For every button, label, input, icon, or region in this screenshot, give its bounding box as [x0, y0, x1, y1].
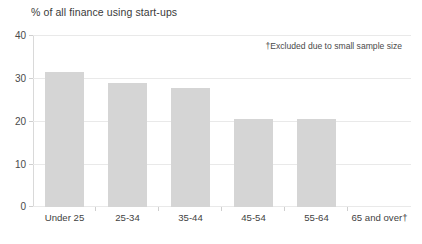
- x-tick-sep-2: [158, 207, 159, 211]
- bar-35-44[interactable]: [171, 88, 210, 207]
- bar-under-25[interactable]: [45, 72, 84, 207]
- y-tick-label-30: 30: [15, 73, 26, 84]
- bar-slot-25-34: [96, 35, 159, 207]
- bar-slot-under-25: [33, 35, 96, 207]
- x-tick-label-under-25: Under 25: [33, 212, 96, 223]
- bar-25-34[interactable]: [108, 83, 147, 207]
- bars-layer: [33, 35, 411, 207]
- bar-slot-65-and-over: [348, 35, 411, 207]
- y-tick-label-10: 10: [15, 159, 26, 170]
- x-tick-label-25-34: 25-34: [96, 212, 159, 223]
- x-tick-label-65-and-over: 65 and over†: [348, 212, 411, 223]
- x-tick-label-45-54: 45-54: [222, 212, 285, 223]
- x-tick-label-55-64: 55-64: [285, 212, 348, 223]
- x-tick-sep-1: [95, 207, 96, 211]
- y-tick-label-0: 0: [20, 201, 26, 212]
- y-tick-label-40: 40: [15, 30, 26, 41]
- bar-55-64[interactable]: [297, 119, 336, 207]
- y-tick-label-20: 20: [15, 116, 26, 127]
- x-tick-label-35-44: 35-44: [159, 212, 222, 223]
- x-tick-sep-4: [284, 207, 285, 211]
- bar-slot-55-64: [285, 35, 348, 207]
- bar-45-54[interactable]: [234, 119, 273, 207]
- x-tick-sep-5: [347, 207, 348, 211]
- plot-area: 40 30 20 10 0: [33, 35, 411, 207]
- chart-title: % of all finance using start-ups: [31, 6, 177, 18]
- bar-slot-45-54: [222, 35, 285, 207]
- x-axis-labels: Under 25 25-34 35-44 45-54 55-64 65 and …: [33, 212, 411, 223]
- bar-chart: % of all finance using start-ups †Exclud…: [0, 0, 422, 244]
- x-tick-sep-3: [221, 207, 222, 211]
- bar-slot-35-44: [159, 35, 222, 207]
